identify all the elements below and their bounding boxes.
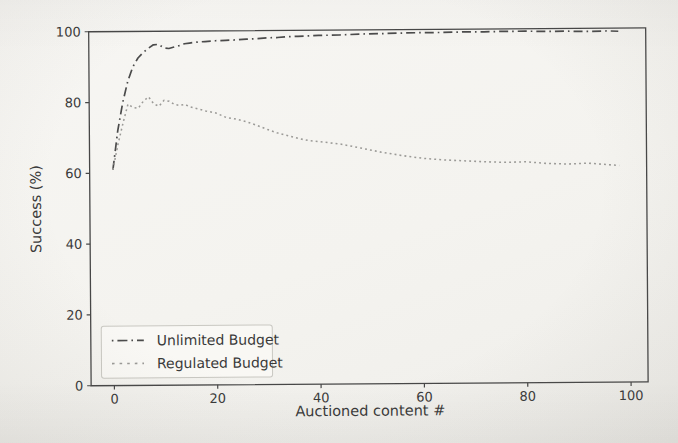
legend-label-unlimited: Unlimited Budget <box>157 332 279 349</box>
y-tick-label: 80 <box>65 95 82 110</box>
x-tick-label: 20 <box>209 391 226 406</box>
x-tick-label: 100 <box>619 388 644 403</box>
y-axis-label: Success (%) <box>28 165 45 253</box>
series-line-regulated-budget <box>112 94 619 170</box>
y-tick-label: 60 <box>65 166 82 181</box>
x-tick-label: 0 <box>110 392 118 407</box>
legend: Unlimited Budget Regulated Budget <box>101 324 273 378</box>
y-tick-label: 40 <box>66 237 83 252</box>
legend-item-regulated-budget: Regulated Budget <box>111 354 272 371</box>
y-tick-label: 100 <box>56 24 81 39</box>
chart-tilt-wrapper: 020406080100020406080100 Auctioned conte… <box>0 0 678 443</box>
y-tick-label: 0 <box>75 378 83 393</box>
x-axis-label: Auctioned content # <box>295 402 445 419</box>
dotted-line-icon <box>111 358 145 368</box>
y-tick-label: 20 <box>66 308 83 323</box>
legend-label-regulated: Regulated Budget <box>157 354 283 371</box>
figure: 020406080100020406080100 Auctioned conte… <box>0 0 678 443</box>
dashdot-line-icon <box>111 336 145 346</box>
legend-item-unlimited-budget: Unlimited Budget <box>111 332 272 349</box>
x-tick-label: 80 <box>520 389 537 404</box>
